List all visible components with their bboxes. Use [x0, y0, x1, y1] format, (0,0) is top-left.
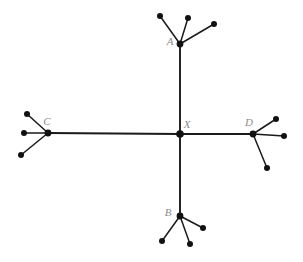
leaf-node-c-6	[24, 111, 30, 117]
leaf-node-a-1	[185, 15, 191, 21]
leaf-node-a-2	[211, 21, 217, 27]
node-label-a: A	[166, 35, 174, 47]
internal-node-b	[177, 213, 184, 220]
branch-edge-b-3	[162, 216, 180, 241]
internal-node-c	[45, 130, 52, 137]
leaf-node-a-0	[157, 13, 163, 19]
node-label-c: C	[43, 115, 51, 127]
leaf-node-d-11	[264, 165, 270, 171]
node-label-x: X	[183, 118, 192, 130]
branch-edge-d-10	[253, 134, 284, 136]
branch-edge-d-11	[253, 134, 267, 168]
leaf-node-d-10	[281, 133, 287, 139]
node-label-b: B	[165, 206, 172, 218]
leaf-node-b-4	[187, 241, 193, 247]
internal-node-group	[45, 41, 257, 220]
internal-node-d	[250, 131, 257, 138]
node-label-d: D	[244, 116, 253, 128]
tree-diagram: ABCDX	[0, 0, 303, 262]
branch-edge-c-8	[21, 133, 48, 155]
leaf-node-c-7	[21, 130, 27, 136]
branch-edge-group	[21, 16, 284, 244]
tree-svg-canvas: ABCDX	[0, 0, 303, 262]
node-label-group: ABCDX	[43, 35, 253, 218]
leaf-node-d-9	[273, 116, 279, 122]
center-node-x	[176, 130, 184, 138]
internal-node-a	[177, 41, 184, 48]
trunk-edge-group	[48, 44, 253, 216]
leaf-node-c-8	[18, 152, 24, 158]
trunk-edge-x-c	[48, 133, 180, 134]
branch-edge-d-9	[253, 119, 276, 134]
leaf-node-b-5	[200, 225, 206, 231]
leaf-node-b-3	[159, 238, 165, 244]
leaf-node-group	[18, 13, 287, 247]
